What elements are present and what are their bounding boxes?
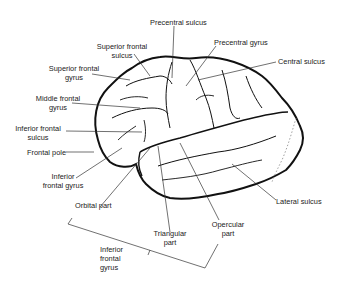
label-superior-frontal-sulcus: Superior frontal sulcus xyxy=(92,42,152,60)
label-line: Middle frontal xyxy=(28,94,88,103)
lateral-sulcus-line xyxy=(140,112,288,152)
label-inferior-frontal-sulcus: Inferior frontal sulcus xyxy=(8,124,68,142)
label-precentral-gyrus: Precentral gyrus xyxy=(214,38,268,47)
label-line: Inferior xyxy=(100,245,123,254)
label-line: gyrus xyxy=(100,263,123,272)
label-ifg-bracket: Inferior frontal gyrus xyxy=(100,245,123,272)
label-line: gyrus xyxy=(44,73,104,82)
label-line: Superior frontal xyxy=(92,42,152,51)
label-line: frontal gyrus xyxy=(38,181,88,190)
label-opercular-part: Opercular part xyxy=(208,220,248,238)
label-line: part xyxy=(208,229,248,238)
label-line: sulcus xyxy=(92,51,152,60)
label-orbital-part: Orbital part xyxy=(75,201,112,210)
brain-outline xyxy=(95,57,303,199)
label-line: frontal xyxy=(100,254,123,263)
label-lateral-sulcus: Lateral sulcus xyxy=(276,197,322,206)
label-superior-frontal-gyrus: Superior frontal gyrus xyxy=(44,64,104,82)
label-line: sulcus xyxy=(8,133,68,142)
label-line: Opercular xyxy=(208,220,248,229)
label-line: Superior frontal xyxy=(44,64,104,73)
label-line: part xyxy=(150,238,190,247)
label-precentral-sulcus: Precentral sulcus xyxy=(150,18,207,27)
label-line: gyrus xyxy=(28,103,88,112)
label-line: Triangular xyxy=(150,229,190,238)
label-line: Inferior frontal xyxy=(8,124,68,133)
ifg-bracket xyxy=(68,218,218,268)
label-inferior-frontal-gyrus: Inferior frontal gyrus xyxy=(38,172,88,190)
label-line: Inferior xyxy=(38,172,88,181)
label-central-sulcus: Central sulcus xyxy=(278,57,325,66)
label-middle-frontal-gyrus: Middle frontal gyrus xyxy=(28,94,88,112)
label-triangular-part: Triangular part xyxy=(150,229,190,247)
label-frontal-pole: Frontal pole xyxy=(27,148,66,157)
